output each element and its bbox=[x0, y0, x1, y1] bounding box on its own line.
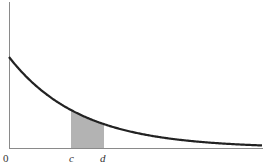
exponential-density-plot bbox=[0, 0, 265, 168]
density-curve bbox=[9, 57, 262, 145]
c-label: c bbox=[69, 153, 74, 164]
d-label: d bbox=[100, 153, 106, 164]
origin-label: 0 bbox=[3, 153, 9, 164]
shaded-area-c-to-d bbox=[71, 110, 104, 148]
